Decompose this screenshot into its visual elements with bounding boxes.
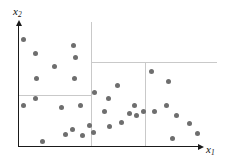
data-point xyxy=(87,123,92,128)
data-point xyxy=(80,133,85,138)
x-axis-label: x1 xyxy=(206,144,215,155)
data-point xyxy=(40,139,45,144)
y-axis-label-subscript: 2 xyxy=(18,10,22,19)
x-axis-arrowhead xyxy=(198,144,204,150)
y-axis-label: x2 xyxy=(13,6,22,17)
scatter-plot-figure: x2 x1 xyxy=(0,0,227,165)
data-point xyxy=(127,111,132,116)
data-point xyxy=(71,43,76,48)
data-point xyxy=(33,96,38,101)
x-axis-label-subscript: 1 xyxy=(211,148,215,157)
y-axis xyxy=(18,26,19,146)
data-point xyxy=(170,136,175,141)
data-point xyxy=(92,90,97,95)
split-line-vertical-right xyxy=(145,62,146,146)
data-point xyxy=(34,76,39,81)
data-point xyxy=(70,127,75,132)
data-point xyxy=(91,130,96,135)
data-point xyxy=(63,132,68,137)
data-point xyxy=(21,37,26,42)
data-point xyxy=(149,69,154,74)
data-point xyxy=(195,131,200,136)
data-point xyxy=(59,105,64,110)
data-point xyxy=(164,103,169,108)
data-point xyxy=(134,113,139,118)
data-point xyxy=(166,79,171,84)
data-point xyxy=(119,120,124,125)
x-axis xyxy=(18,146,198,147)
split-line-horizontal-top xyxy=(91,62,217,63)
data-point xyxy=(106,96,111,101)
data-point xyxy=(21,103,26,108)
data-point xyxy=(132,103,137,108)
data-point xyxy=(33,51,38,56)
data-point xyxy=(174,113,179,118)
data-point xyxy=(107,124,112,129)
data-point xyxy=(141,109,146,114)
data-point xyxy=(52,64,57,69)
split-line-horizontal-middle xyxy=(18,95,91,96)
y-axis-arrowhead xyxy=(16,20,22,26)
data-point xyxy=(73,55,78,60)
data-point xyxy=(72,76,77,81)
data-point xyxy=(78,103,83,108)
data-point xyxy=(115,83,120,88)
data-point xyxy=(152,109,157,114)
split-line-vertical-left xyxy=(91,22,92,146)
data-point xyxy=(187,121,192,126)
data-point xyxy=(102,109,107,114)
